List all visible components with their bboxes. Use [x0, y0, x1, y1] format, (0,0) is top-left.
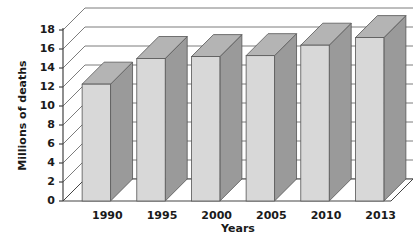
bar-side-face [165, 37, 187, 202]
bar-front-face [355, 38, 383, 201]
bar-front-face [301, 45, 329, 201]
y-tick-label: 18 [40, 23, 55, 36]
gridline-depth-connector [63, 27, 85, 49]
bars-group [82, 16, 406, 201]
y-tick-label: 16 [40, 42, 56, 55]
bar-chart-figure: 024681012141618199019952000200520102013Y… [0, 0, 419, 246]
y-axis-title: Millions of deaths [16, 60, 29, 171]
y-axis-ticks: 024681012141618 [40, 23, 63, 207]
gridline-depth-connector [63, 160, 85, 182]
bar-side-face [220, 35, 242, 201]
bar-front-face [191, 57, 219, 201]
x-tick-label: 1990 [92, 209, 123, 222]
gridline-depth-connector [63, 65, 85, 87]
bar-side-face [275, 34, 297, 201]
y-tick-label: 12 [40, 80, 55, 93]
bar-2010 [301, 23, 351, 201]
x-tick-label: 2010 [311, 209, 342, 222]
gridline-depth-connector [63, 103, 85, 125]
y-tick-label: 10 [40, 99, 56, 112]
y-tick-label: 2 [47, 175, 55, 188]
x-tick-label: 2005 [256, 209, 287, 222]
bar-1990 [82, 62, 132, 201]
bar-2005 [246, 34, 296, 201]
bar-1995 [137, 37, 187, 202]
y-tick-label: 8 [47, 118, 55, 131]
gridline-depth-connector [63, 141, 85, 163]
y-tick-label: 6 [47, 137, 55, 150]
x-axis-title: Years [220, 222, 255, 235]
gridline-depth-connector [63, 84, 85, 106]
gridline-depth-connector [63, 8, 85, 30]
bar-side-face [384, 16, 406, 201]
bar-2013 [355, 16, 405, 201]
y-tick-label: 14 [40, 61, 56, 74]
bar-side-face [111, 62, 133, 201]
bar-front-face [137, 59, 165, 202]
bar-side-face [329, 23, 351, 201]
gridline-depth-connector [63, 122, 85, 144]
x-tick-label: 2000 [201, 209, 232, 222]
x-tick-label: 2013 [365, 209, 396, 222]
x-axis-ticks: 199019952000200520102013 [92, 209, 396, 222]
y-tick-label: 4 [47, 156, 55, 169]
y-tick-label: 0 [47, 194, 55, 207]
bar-front-face [246, 56, 274, 201]
gridline-depth-connector [63, 46, 85, 68]
chart-canvas: 024681012141618199019952000200520102013Y… [0, 0, 419, 246]
bar-2000 [191, 35, 241, 201]
x-tick-label: 1995 [147, 209, 178, 222]
bar-front-face [82, 84, 110, 201]
